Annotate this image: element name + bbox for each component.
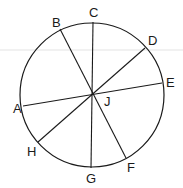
label-D: D	[148, 33, 157, 48]
label-H: H	[27, 144, 36, 159]
label-B: B	[52, 15, 61, 30]
label-E: E	[166, 75, 175, 90]
chords-group	[23, 22, 162, 168]
label-F: F	[127, 160, 135, 175]
circle-diagram: A B C D E F G H J	[0, 0, 183, 188]
label-J-center: J	[104, 94, 111, 109]
label-G: G	[86, 171, 96, 186]
label-A: A	[13, 101, 22, 116]
label-C: C	[89, 5, 98, 20]
